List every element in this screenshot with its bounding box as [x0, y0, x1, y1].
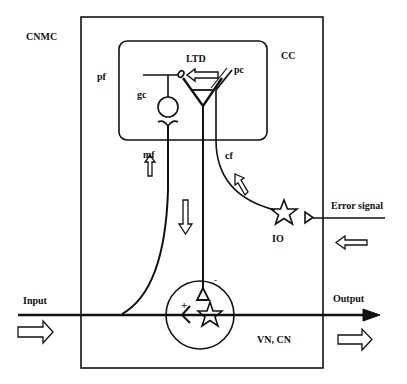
- input-label: Input: [23, 295, 48, 306]
- error-signal-synapse-icon: [305, 212, 313, 223]
- output-arrow-icon: [338, 329, 372, 350]
- error-signal-arrow-icon: [336, 236, 367, 249]
- pf-synapse-knob: [177, 70, 185, 79]
- mossy-fiber-synapse-icon: [158, 121, 178, 126]
- pf-label: pf: [97, 71, 107, 82]
- ltd-label: LTD: [186, 53, 206, 64]
- signal-down-arrow-icon: [179, 200, 192, 234]
- error-signal-label: Error signal: [331, 200, 383, 211]
- cerebellar-circuit-diagram: CNMC CC LTD pf gc pc mf cf IO Error sign…: [0, 0, 407, 384]
- gc-label: gc: [137, 89, 147, 100]
- cnmc-label: CNMC: [26, 31, 57, 42]
- vn-cn-label: VN, CN: [257, 334, 292, 345]
- mf-label: mf: [143, 149, 155, 160]
- minus-sign: -: [214, 275, 217, 285]
- inferior-olive-star-icon: [271, 200, 297, 224]
- plus-sign: +: [181, 299, 187, 311]
- input-arrow-icon: [18, 321, 53, 343]
- inhibitory-synapse-icon: [197, 288, 209, 300]
- granule-cell-icon: [158, 97, 178, 117]
- cc-label: CC: [281, 50, 295, 61]
- pc-label: pc: [234, 64, 245, 75]
- io-label: IO: [272, 233, 284, 244]
- output-arrowhead-icon: [363, 309, 380, 321]
- cf-label: cf: [225, 150, 233, 161]
- output-label: Output: [333, 293, 365, 304]
- ltd-arrow-icon: [187, 69, 218, 81]
